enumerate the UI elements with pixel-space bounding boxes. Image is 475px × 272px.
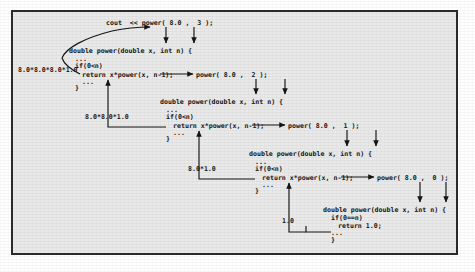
frame-n1-ellipsis-bottom: ...	[262, 181, 274, 190]
frame-n3-ellipsis-bottom: ...	[82, 78, 94, 87]
return-value-n2: 8.0*8.0*1.0	[85, 113, 129, 121]
frame-n2-next-call: power( 8.0 , 1 );	[288, 122, 359, 131]
return-value-n0: 1.0	[282, 217, 294, 225]
frame-n2-return-statement: return x*power(x, n-1);	[173, 122, 264, 131]
frame-n2-ellipsis-bottom: ...	[173, 129, 185, 138]
return-value-n3: 8.0*8.0*8.0*1.0	[18, 66, 78, 74]
frame-n1-condition: if(0<n)	[255, 165, 283, 174]
frame-n2-condition: if(0<n)	[166, 113, 194, 122]
frame-n2-signature: double power(double x, int n) {	[160, 98, 283, 107]
frame-n2-close-brace: }	[166, 135, 170, 144]
frame-n1-return-statement: return x*power(x, n-1);	[262, 174, 353, 183]
frame-n3-return-statement: return x*power(x, n-1);	[82, 71, 173, 80]
return-value-n1: 8.0*1.0	[188, 165, 216, 173]
frame-n3-close-brace: }	[75, 84, 79, 93]
figure-canvas: cout << power( 8.0 , 3 ); 8.0*8.0*8.0*1.…	[0, 0, 475, 272]
frame-n3-condition: if(0<n)	[75, 62, 103, 71]
frame-n1-close-brace: }	[255, 187, 259, 196]
frame-n1-signature: double power(double x, int n) {	[249, 150, 372, 159]
frame-n0-return-statement: return 1.0;	[338, 222, 382, 231]
frame-n3-signature: double power(double x, int n) {	[69, 47, 192, 56]
frame-n1-next-call: power( 8.0 , 0 );	[377, 174, 448, 183]
frame-n0-close-brace: }	[331, 236, 335, 245]
frame-n3-next-call: power( 8.0 , 2 );	[196, 71, 267, 80]
call-site-statement: cout << power( 8.0 , 3 );	[106, 19, 213, 28]
